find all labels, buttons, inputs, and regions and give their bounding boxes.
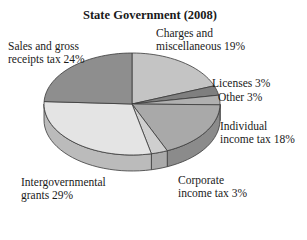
label-sales: Sales and gross receipts tax 24% [8,40,85,66]
label-licenses: Licenses 3% [212,77,270,90]
label-corporate-line1: Corporate [178,174,247,187]
label-intergovernmental: Intergovernmental grants 29% [21,176,106,202]
label-individual: Individual income tax 18% [220,120,295,146]
label-charges: Charges and miscellaneous 19% [156,27,245,53]
label-other: Other 3% [218,91,262,104]
label-charges-line2: miscellaneous 19% [156,40,245,53]
label-corporate-line2: income tax 3% [178,187,247,200]
label-intergov-line2: grants 29% [21,189,106,202]
label-charges-line1: Charges and [156,27,245,40]
label-corporate: Corporate income tax 3% [178,174,247,200]
label-sales-line2: receipts tax 24% [8,53,85,66]
label-sales-line1: Sales and gross [8,40,85,53]
label-individual-line1: Individual [220,120,295,133]
label-intergov-line1: Intergovernmental [21,176,106,189]
label-individual-line2: income tax 18% [220,133,295,146]
